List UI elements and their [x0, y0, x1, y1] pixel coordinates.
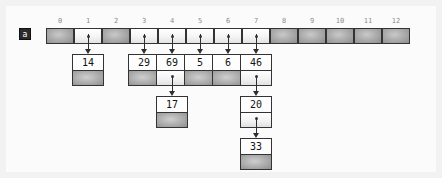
node-next-nil-33	[241, 154, 271, 169]
node-next-nil-6	[213, 70, 243, 85]
link-slot1-to-14	[88, 34, 89, 50]
node-value-46: 46	[241, 55, 271, 70]
diagram-page: a 0 1 2 3 4 5 6 7 8 9 10 11 12 14	[6, 6, 436, 172]
array-index-label-7: 7	[242, 17, 270, 25]
node-next-nil-14	[73, 70, 103, 85]
array-index-label-0: 0	[46, 17, 74, 25]
link-slot7-to-46	[256, 34, 257, 50]
array-index-label-12: 12	[382, 17, 410, 25]
link-slot3-to-29	[144, 34, 145, 50]
node-value-14: 14	[73, 55, 103, 70]
array-slot-10[interactable]	[326, 28, 354, 44]
array-slot-12[interactable]	[382, 28, 410, 44]
list-node-17[interactable]: 17	[156, 96, 188, 128]
array-index-label-6: 6	[214, 17, 242, 25]
array-slot-11[interactable]	[354, 28, 382, 44]
link-69-to-17	[172, 76, 173, 92]
node-value-17: 17	[157, 97, 187, 112]
link-slot4-to-69	[172, 34, 173, 50]
array-index-label-5: 5	[186, 17, 214, 25]
link-20-to-33	[256, 118, 257, 134]
array-index-label-2: 2	[102, 17, 130, 25]
array-index-label-10: 10	[326, 17, 354, 25]
list-node-14[interactable]: 14	[72, 54, 104, 86]
array-slot-2[interactable]	[102, 28, 130, 44]
node-value-5: 5	[185, 55, 215, 70]
diagram-canvas: a 0 1 2 3 4 5 6 7 8 9 10 11 12 14	[0, 0, 442, 178]
array-slot-0[interactable]	[46, 28, 74, 44]
node-value-20: 20	[241, 97, 271, 112]
array-slot-9[interactable]	[298, 28, 326, 44]
array-index-label-11: 11	[354, 17, 382, 25]
node-next-nil-29	[129, 70, 159, 85]
array-index-label-8: 8	[270, 17, 298, 25]
list-node-33[interactable]: 33	[240, 138, 272, 170]
node-next-nil-5	[185, 70, 215, 85]
array-index-label-4: 4	[158, 17, 186, 25]
link-slot6-to-6	[228, 34, 229, 50]
node-value-29: 29	[129, 55, 159, 70]
array-index-label-9: 9	[298, 17, 326, 25]
node-value-6: 6	[213, 55, 243, 70]
link-slot5-to-5	[200, 34, 201, 50]
array-index-label-3: 3	[130, 17, 158, 25]
link-46-to-20	[256, 76, 257, 92]
array-slot-8[interactable]	[270, 28, 298, 44]
node-next-nil-17	[157, 112, 187, 127]
node-value-33: 33	[241, 139, 271, 154]
array-name-label: a	[19, 28, 31, 40]
node-value-69: 69	[157, 55, 187, 70]
array-index-label-1: 1	[74, 17, 102, 25]
